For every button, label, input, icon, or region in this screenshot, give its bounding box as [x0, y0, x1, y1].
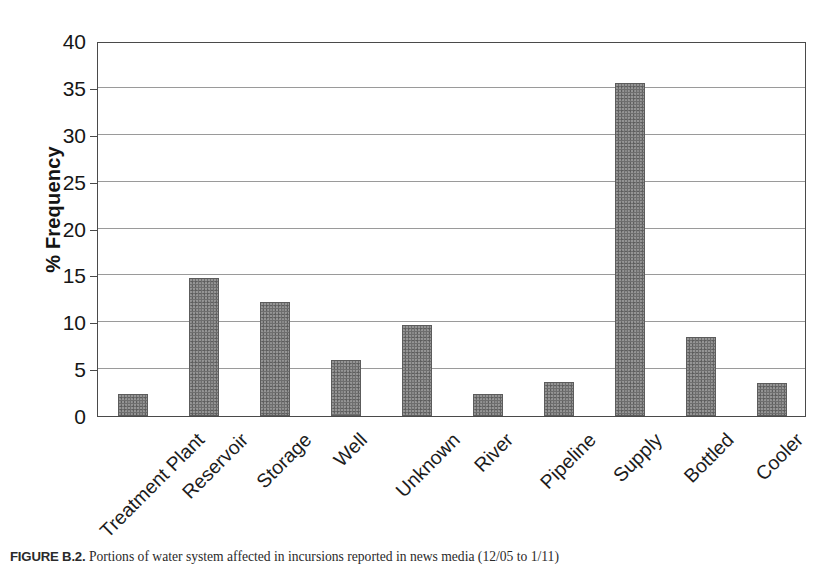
x-axis-label-slot: Cooler — [735, 417, 806, 537]
plot-area — [97, 42, 806, 417]
figure-caption-label: FIGURE B.2. — [10, 549, 85, 564]
x-axis-tick-label: Pipeline — [535, 428, 600, 493]
y-axis-tick-label: 10 — [42, 311, 86, 335]
y-axis-tick-mark — [90, 136, 97, 137]
x-axis-label-slot: Well — [310, 417, 381, 537]
x-axis-label-slot: Unknown — [381, 417, 452, 537]
x-axis-label-slot: Bottled — [664, 417, 735, 537]
x-axis-label-slot: River — [452, 417, 523, 537]
x-axis-tick-label: River — [469, 428, 517, 476]
x-axis-label-slot: Treatment Plant — [97, 417, 168, 537]
bar — [260, 302, 290, 416]
bar-series — [98, 43, 805, 416]
x-axis-tick-label: Well — [329, 428, 372, 471]
bar — [118, 394, 148, 416]
figure-caption: FIGURE B.2. Portions of water system aff… — [10, 549, 822, 565]
y-axis-tick-mark — [90, 323, 97, 324]
y-axis-tick-mark — [90, 183, 97, 184]
bar — [189, 278, 219, 416]
y-axis-tick-label: 25 — [42, 171, 86, 195]
bar — [544, 382, 574, 416]
x-axis-tick-label: Cooler — [751, 428, 808, 485]
bar — [402, 325, 432, 416]
bar — [331, 360, 361, 416]
x-axis-tick-label: Bottled — [679, 428, 738, 487]
x-axis-label-slot: Reservoir — [168, 417, 239, 537]
figure-caption-text: Portions of water system affected in inc… — [89, 549, 559, 564]
y-axis-tick-mark — [90, 230, 97, 231]
x-axis-labels: Treatment PlantReservoirStorageWellUnkno… — [97, 417, 806, 537]
y-axis-tick-mark — [90, 370, 97, 371]
y-axis-tick-label: 40 — [42, 30, 86, 54]
y-axis-tick-label: 5 — [42, 358, 86, 382]
figure-container: % Frequency 0510152025303540 Treatment P… — [0, 0, 827, 566]
x-axis-label-slot: Storage — [239, 417, 310, 537]
y-axis-tick-label: 0 — [42, 405, 86, 429]
x-axis-tick-label: Storage — [252, 428, 317, 493]
y-axis-tick-mark — [90, 89, 97, 90]
x-axis-label-slot: Supply — [593, 417, 664, 537]
bar — [686, 337, 716, 416]
y-axis-tick-label: 20 — [42, 218, 86, 242]
y-axis-tick-label: 35 — [42, 77, 86, 101]
bar — [757, 383, 787, 416]
x-axis-label-slot: Pipeline — [522, 417, 593, 537]
y-axis-tick-label: 15 — [42, 264, 86, 288]
bar — [615, 83, 645, 416]
bar — [473, 394, 503, 416]
x-axis-tick-label: Supply — [608, 428, 666, 486]
y-axis-tick-mark — [90, 276, 97, 277]
y-axis-tick-label: 30 — [42, 124, 86, 148]
